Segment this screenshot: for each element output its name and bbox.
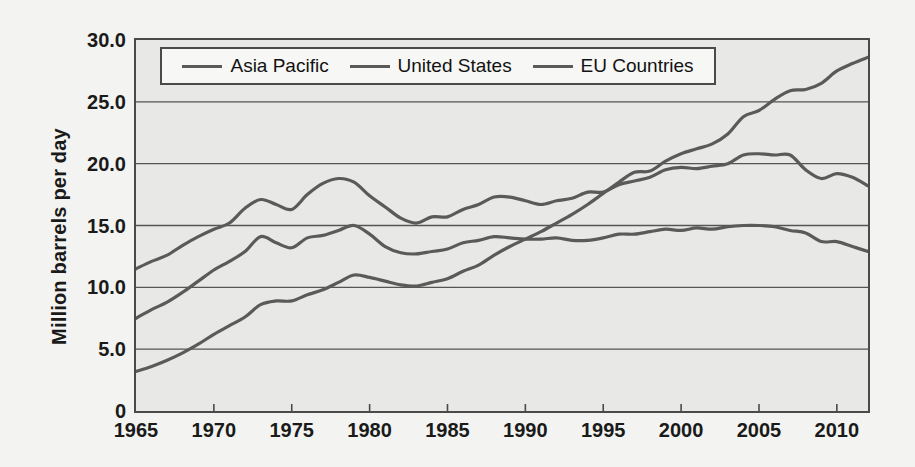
x-axis-tick-label: 2000 xyxy=(659,419,704,442)
x-axis-tick-label: 1985 xyxy=(425,419,470,442)
series-line-eu-countries xyxy=(136,225,868,318)
x-axis-tick-label: 1990 xyxy=(503,419,548,442)
legend-swatch-icon xyxy=(182,65,222,68)
line-chart: Million barrels per day 05.010.015.020.0… xyxy=(0,0,915,467)
series-line-asia-pacific xyxy=(136,57,868,371)
y-axis-tick-label: 30.0 xyxy=(0,29,134,52)
y-axis-tick-label: 10.0 xyxy=(0,276,134,299)
legend-label: Asia Pacific xyxy=(230,55,328,77)
x-axis-tick-label: 2010 xyxy=(815,419,860,442)
chart-legend: Asia Pacific United States EU Countries xyxy=(160,47,716,85)
legend-label: EU Countries xyxy=(581,55,694,77)
legend-swatch-icon xyxy=(350,65,390,68)
x-axis-tick-label: 1995 xyxy=(581,419,626,442)
y-axis-tick-label: 25.0 xyxy=(0,90,134,113)
y-axis-tick-label: 20.0 xyxy=(0,152,134,175)
x-axis-tick-label: 1970 xyxy=(192,419,237,442)
legend-label: United States xyxy=(398,55,512,77)
legend-item-united-states: United States xyxy=(350,55,512,77)
x-axis-tick-label: 1975 xyxy=(269,419,314,442)
legend-swatch-icon xyxy=(533,65,573,68)
plot-area xyxy=(134,38,870,413)
x-axis-tick-label: 1980 xyxy=(347,419,392,442)
y-axis-tick-label: 5.0 xyxy=(0,338,134,361)
legend-item-asia-pacific: Asia Pacific xyxy=(182,55,328,77)
x-axis-tick-label: 1965 xyxy=(114,419,159,442)
y-axis-tick-label: 15.0 xyxy=(0,214,134,237)
legend-item-eu-countries: EU Countries xyxy=(533,55,694,77)
x-axis-tick-label: 2005 xyxy=(737,419,782,442)
series-canvas xyxy=(136,40,868,411)
